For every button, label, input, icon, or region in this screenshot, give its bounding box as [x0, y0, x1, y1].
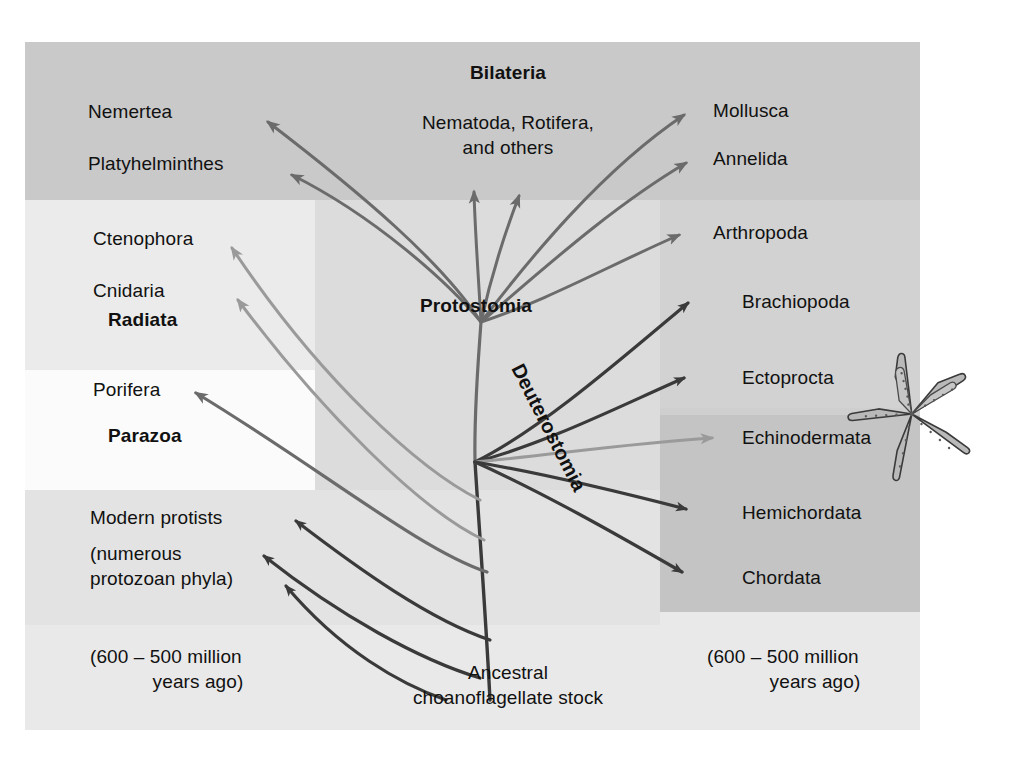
- diagram-canvas: Bilateria Nemertea Platyhelminthes Nemat…: [0, 0, 1026, 771]
- taxon-label-nematoda-line1: Nematoda, Rotifera,: [370, 110, 646, 135]
- branch-protists-1: [296, 521, 490, 640]
- taxon-label-nematoda-line2: and others: [370, 135, 646, 160]
- branch-protostomia-stem: [475, 322, 481, 462]
- taxon-label-arthropoda: Arthropoda: [713, 220, 808, 245]
- timescale-right-line1: (600 – 500 million: [707, 644, 859, 669]
- sea-star-illustration: [845, 348, 980, 483]
- taxon-label-hemichordata: Hemichordata: [742, 500, 861, 525]
- taxon-label-platyhelminthes: Platyhelminthes: [88, 151, 224, 176]
- taxon-label-protists-line2: (numerous: [90, 541, 182, 566]
- timescale-left-line1: (600 – 500 million: [90, 644, 242, 669]
- taxon-label-protists-line3: protozoan phyla): [90, 566, 233, 591]
- group-label-parazoa: Parazoa: [108, 423, 182, 448]
- group-label-radiata: Radiata: [108, 307, 177, 332]
- taxon-label-annelida: Annelida: [713, 146, 788, 171]
- timescale-left-line2: years ago): [90, 669, 306, 694]
- branch-ctenophora: [232, 248, 480, 500]
- branch-porifera: [196, 393, 487, 572]
- group-label-protostomia: Protostomia: [420, 293, 532, 318]
- taxon-label-nemertea: Nemertea: [88, 99, 172, 124]
- root-label-line1: Ancestral: [358, 660, 658, 685]
- taxon-label-cnidaria: Cnidaria: [93, 278, 165, 303]
- taxon-label-mollusca: Mollusca: [713, 98, 789, 123]
- taxon-label-brachiopoda: Brachiopoda: [742, 289, 850, 314]
- branch-brachiopoda: [475, 303, 688, 462]
- taxon-label-ectoprocta: Ectoprocta: [742, 365, 834, 390]
- group-label-bilateria: Bilateria: [438, 60, 578, 85]
- branch-cnidaria: [238, 300, 484, 540]
- root-label-line2: choanoflagellate stock: [358, 685, 658, 710]
- timescale-right-line2: years ago): [707, 669, 923, 694]
- taxon-label-chordata: Chordata: [742, 565, 821, 590]
- taxon-label-porifera: Porifera: [93, 377, 160, 402]
- taxon-label-echinodermata: Echinodermata: [742, 425, 871, 450]
- taxon-label-protists-line1: Modern protists: [90, 505, 222, 530]
- taxon-label-ctenophora: Ctenophora: [93, 226, 193, 251]
